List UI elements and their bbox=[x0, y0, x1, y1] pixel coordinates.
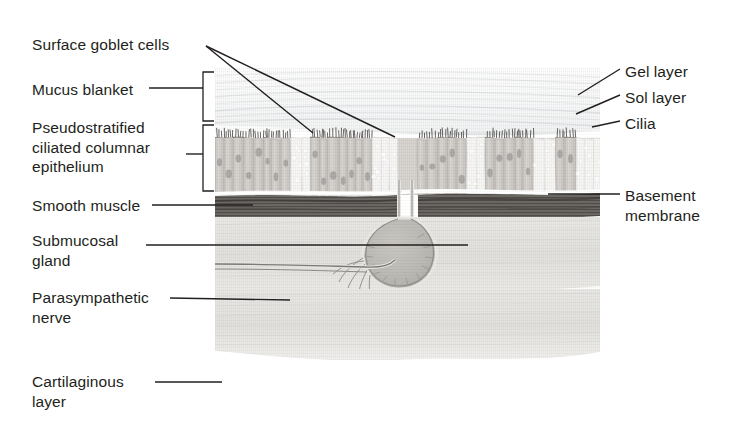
airway-histology-figure: Surface goblet cells Mucus blanket Pseud… bbox=[0, 0, 748, 442]
epithelium-bracket bbox=[203, 125, 214, 191]
airway-wall-illustration bbox=[215, 68, 600, 360]
label-cilia: Cilia bbox=[625, 114, 656, 134]
label-submucosal-gland: Submucosal gland bbox=[32, 231, 118, 270]
label-sol-layer: Sol layer bbox=[625, 88, 686, 108]
label-surface-goblet-cells: Surface goblet cells bbox=[32, 35, 169, 55]
label-basement-membrane: Basement membrane bbox=[625, 186, 700, 225]
illustration-svg bbox=[215, 68, 600, 360]
label-pseudostratified-epithelium: Pseudostratified ciliated columnar epith… bbox=[32, 118, 150, 177]
label-gel-layer: Gel layer bbox=[625, 62, 688, 82]
label-cartilaginous-layer: Cartilaginous layer bbox=[32, 372, 124, 411]
label-mucus-blanket: Mucus blanket bbox=[32, 80, 133, 100]
label-smooth-muscle: Smooth muscle bbox=[32, 196, 140, 216]
mucus-blanket-bracket bbox=[203, 72, 214, 121]
label-parasympathetic-nerve: Parasympathetic nerve bbox=[32, 288, 149, 327]
